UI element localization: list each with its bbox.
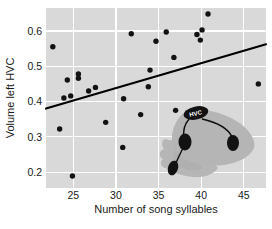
x-axis-ticks: 2530354045 <box>67 189 249 201</box>
x-tick-label: 40 <box>195 189 207 201</box>
scatter-plot: HVC 2530354045 0.20.30.40.50.6 Number of… <box>0 0 272 229</box>
x-tick-label: 30 <box>110 189 122 201</box>
data-point <box>194 32 199 37</box>
data-point <box>198 37 203 42</box>
data-point <box>164 29 169 34</box>
data-point <box>199 27 204 32</box>
data-point <box>103 120 108 125</box>
data-point <box>173 108 178 113</box>
data-point <box>129 31 134 36</box>
x-axis-label: Number of song syllables <box>94 203 218 215</box>
data-point <box>57 126 62 131</box>
data-point <box>93 85 98 90</box>
data-point <box>138 112 143 117</box>
data-point <box>61 95 66 100</box>
data-point <box>205 11 210 16</box>
data-point <box>70 173 75 178</box>
figure-container: HVC 2530354045 0.20.30.40.50.6 Number of… <box>0 0 272 229</box>
data-point <box>153 38 158 43</box>
y-tick-label: 0.3 <box>27 131 42 143</box>
x-tick-label: 25 <box>67 189 79 201</box>
data-point <box>171 55 176 60</box>
y-tick-label: 0.5 <box>27 60 42 72</box>
data-point <box>146 84 151 89</box>
y-axis-label: Volume left HVC <box>4 58 16 139</box>
data-point <box>86 88 91 93</box>
ra-nucleus-icon <box>227 135 239 151</box>
x-tick-label: 35 <box>153 189 165 201</box>
data-point <box>68 93 73 98</box>
area-x-nucleus-icon <box>179 134 192 151</box>
x-tick-label: 45 <box>238 189 250 201</box>
y-tick-label: 0.2 <box>27 166 42 178</box>
y-tick-label: 0.6 <box>27 25 42 37</box>
data-point <box>121 96 126 101</box>
data-point <box>65 77 70 82</box>
data-point <box>76 76 81 81</box>
y-tick-label: 0.4 <box>27 95 42 107</box>
y-axis-ticks: 0.20.30.40.50.6 <box>27 25 42 178</box>
data-point <box>147 67 152 72</box>
data-point <box>50 44 55 49</box>
data-point <box>120 145 125 150</box>
data-point <box>256 81 261 86</box>
